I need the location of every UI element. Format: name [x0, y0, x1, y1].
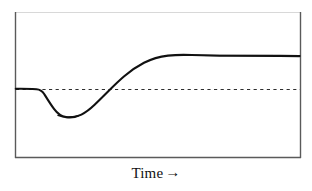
response-curve [16, 55, 300, 118]
figure-container: Time→ [0, 0, 312, 191]
right-arrow-icon: → [165, 163, 180, 181]
response-curve-stroke [16, 55, 300, 118]
plot-frame [15, 12, 301, 158]
x-axis-label: Time→ [0, 162, 312, 182]
x-axis-label-text: Time [131, 164, 163, 182]
